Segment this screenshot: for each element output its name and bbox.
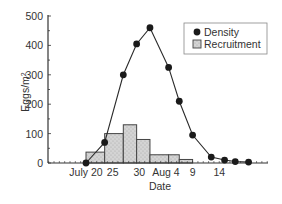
y-axis-title-sup: 2 xyxy=(20,72,27,76)
y-tick-label: 500 xyxy=(25,10,43,22)
recruitment-bar xyxy=(123,125,136,163)
legend-label-recruitment: Recruitment xyxy=(204,38,261,50)
y-tick-label: 100 xyxy=(25,128,43,140)
legend: Density Recruitment xyxy=(184,23,267,54)
density-point xyxy=(245,159,252,166)
legend-label-density: Density xyxy=(204,26,240,38)
chart: 0100200300400500 July 202530Aug 4914 Egg… xyxy=(0,0,282,204)
density-point xyxy=(165,64,172,71)
density-point xyxy=(208,154,215,161)
recruitment-legend-swatch-icon xyxy=(193,40,201,48)
density-point xyxy=(147,24,154,31)
x-tick-label: 25 xyxy=(107,166,119,178)
density-legend-marker-icon xyxy=(194,29,201,36)
x-tick-label: 30 xyxy=(133,166,145,178)
x-tick-label: 9 xyxy=(190,166,196,178)
density-point xyxy=(133,41,140,48)
y-axis-title-base: Eggs/m xyxy=(19,76,31,112)
density-point xyxy=(176,98,183,105)
y-tick-label: 0 xyxy=(37,157,43,169)
density-point xyxy=(120,71,127,78)
density-point xyxy=(232,158,239,165)
x-tick-label: Aug 4 xyxy=(152,166,180,178)
x-axis-title: Date xyxy=(149,180,171,192)
density-point xyxy=(221,157,228,164)
y-tick-label: 400 xyxy=(25,39,43,51)
x-tick-label: 14 xyxy=(213,166,225,178)
recruitment-bar xyxy=(105,134,124,163)
x-tick-label: July 20 xyxy=(69,166,102,178)
density-point xyxy=(189,132,196,139)
recruitment-bar xyxy=(169,155,180,163)
density-point xyxy=(101,139,108,146)
y-axis-title: Eggs/m2 xyxy=(19,72,31,112)
density-point xyxy=(83,160,90,167)
recruitment-bar xyxy=(137,139,150,163)
